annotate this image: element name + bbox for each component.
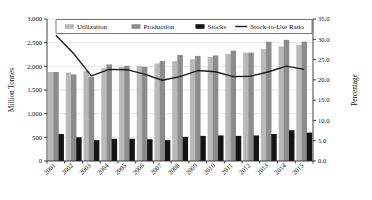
right-tick-label: 35.0	[318, 15, 330, 22]
bar-utilization-2001	[48, 72, 53, 161]
x-tick-label-2007: 2007	[149, 161, 164, 176]
bar-utilization-2009	[190, 59, 195, 161]
right-tick-label: 15.0	[318, 96, 330, 103]
x-tick-label-2004: 2004	[96, 161, 111, 176]
left-tick-label: 2,000	[27, 63, 43, 70]
x-tick-label-2009: 2009	[184, 161, 199, 176]
bar-stocks-2003	[94, 140, 99, 161]
x-tick-label-2002: 2002	[60, 162, 74, 176]
right-axis-title: Percentage	[351, 74, 359, 106]
bar-production-2014	[284, 40, 289, 161]
bar-production-2008	[177, 55, 182, 161]
x-tick-label-2003: 2003	[78, 161, 93, 176]
bar-utilization-2012	[243, 53, 248, 161]
bar-stocks-2015	[307, 133, 312, 161]
bar-production-2004	[106, 64, 111, 161]
bar-production-2002	[71, 74, 76, 161]
bar-utilization-2013	[261, 49, 266, 161]
bar-production-2011	[231, 51, 236, 161]
bar-production-2005	[124, 66, 129, 161]
right-tick-label: 20.0	[318, 76, 330, 83]
x-tick-label-2001: 2001	[42, 162, 56, 176]
bar-utilization-2006	[137, 66, 142, 161]
bar-stocks-2013	[271, 134, 276, 161]
legend-label-2: Stocks	[208, 23, 227, 31]
left-tick-label: 500	[32, 134, 43, 141]
left-tick-label: 1,000	[27, 110, 43, 117]
left-tick-label: 2,500	[27, 39, 43, 46]
bar-utilization-2008	[172, 61, 177, 161]
bar-utilization-2014	[279, 46, 284, 161]
right-tick-label: 5.0	[318, 137, 327, 144]
bar-production-2007	[160, 61, 165, 161]
bar-stocks-2006	[147, 139, 152, 161]
left-tick-label: 0	[39, 157, 43, 164]
x-tick-label-2013: 2013	[255, 161, 270, 176]
bar-stocks-2002	[76, 137, 81, 161]
bar-utilization-2010	[208, 57, 213, 161]
x-tick-label-2015: 2015	[291, 161, 306, 176]
bar-production-2001	[53, 72, 58, 161]
bar-stocks-2004	[112, 139, 117, 161]
bar-production-2015	[302, 42, 307, 161]
x-tick-label-2008: 2008	[166, 161, 181, 176]
right-tick-label: 30.0	[318, 36, 330, 43]
bar-utilization-2003	[84, 71, 89, 161]
bar-production-2003	[89, 77, 94, 161]
left-tick-label: 1,500	[27, 86, 43, 93]
bar-production-2012	[248, 53, 253, 161]
bar-utilization-2002	[66, 72, 71, 161]
bar-utilization-2011	[225, 54, 230, 161]
x-tick-label-2006: 2006	[131, 161, 146, 176]
bar-stocks-2012	[254, 135, 259, 161]
left-axis-title: Million Tonnes	[8, 68, 16, 112]
x-tick-label-2010: 2010	[202, 161, 217, 176]
x-tick-label-2012: 2012	[237, 162, 251, 176]
bar-stocks-2007	[165, 140, 170, 161]
right-tick-label: 0.0	[318, 157, 327, 164]
bar-stocks-2005	[129, 139, 134, 161]
x-tick-label-2011: 2011	[220, 162, 234, 176]
bar-utilization-2015	[296, 45, 301, 161]
legend-swatch-0	[65, 24, 74, 29]
bar-stocks-2014	[289, 130, 294, 161]
bar-stocks-2008	[183, 137, 188, 161]
legend-swatch-1	[132, 24, 141, 29]
bar-utilization-2005	[119, 67, 124, 161]
bar-stocks-2011	[236, 136, 241, 161]
bar-stocks-2010	[218, 135, 223, 161]
legend-label-1: Production	[144, 23, 175, 31]
stock-to-use-chart: 05001,0001,5002,0002,5003,0000.05.010.01…	[0, 0, 372, 200]
right-tick-label: 25.0	[318, 56, 330, 63]
bar-stocks-2009	[200, 136, 205, 161]
right-tick-label: 10.0	[318, 117, 330, 124]
chart-container: 05001,0001,5002,0002,5003,0000.05.010.01…	[0, 0, 372, 200]
x-tick-label-2014: 2014	[273, 161, 288, 176]
x-tick-label-2005: 2005	[113, 161, 128, 176]
bar-production-2013	[266, 42, 271, 161]
bar-stocks-2001	[58, 134, 63, 161]
bar-utilization-2004	[101, 68, 106, 161]
legend-label-0: Utilization	[77, 23, 107, 31]
bar-production-2006	[142, 67, 147, 161]
left-tick-label: 3,000	[27, 15, 43, 22]
legend-swatch-2	[196, 24, 205, 29]
legend-label-3: Stock-to-Use Ratio	[250, 23, 304, 31]
